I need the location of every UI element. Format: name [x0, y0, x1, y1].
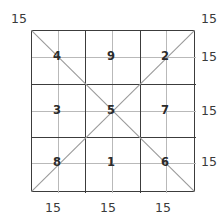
- row-sum-label-2: 15: [196, 104, 222, 118]
- cell-value-r0c0: 4: [46, 48, 68, 64]
- grid-line-vertical-1: [85, 31, 86, 193]
- cell-value-r1c2: 7: [154, 102, 176, 118]
- magic-square-figure: 15 15 15 15 15 15 15 15 4 9 2 3 5 7 8 1 …: [0, 0, 224, 223]
- cell-value-r0c1: 9: [100, 48, 122, 64]
- column-sum-label-3: 15: [150, 201, 176, 215]
- grid-line-horizontal-1: [32, 84, 196, 85]
- diagonal-sum-label-top-left: 15: [6, 12, 32, 26]
- column-sum-label-2: 15: [95, 201, 121, 215]
- column-sum-label-1: 15: [40, 201, 66, 215]
- cell-value-r1c0: 3: [46, 102, 68, 118]
- row-sum-label-1: 15: [196, 50, 222, 64]
- diagonal-sum-label-top-right: 15: [196, 12, 222, 26]
- grid-line-vertical-2: [140, 31, 141, 193]
- cell-value-r2c0: 8: [46, 154, 68, 170]
- cell-value-r0c2: 2: [154, 48, 176, 64]
- cell-value-r2c1: 1: [100, 154, 122, 170]
- cell-value-r2c2: 6: [154, 154, 176, 170]
- grid-line-horizontal-2: [32, 137, 196, 138]
- cell-value-r1c1: 5: [100, 102, 122, 118]
- row-sum-label-3: 15: [196, 155, 222, 169]
